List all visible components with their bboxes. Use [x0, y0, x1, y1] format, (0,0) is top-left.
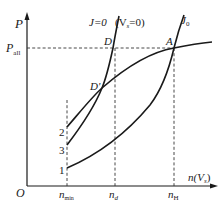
curve-number-2: 2 [59, 126, 65, 138]
vs-zero-label: (Vs=0) [115, 16, 145, 30]
point-d-label: D [103, 35, 112, 47]
point-a-label: A [165, 35, 173, 47]
axes [25, 12, 219, 189]
y-axis-arrow-icon [25, 12, 30, 20]
n-h-label: nH [168, 188, 179, 202]
reference-lines [27, 48, 174, 186]
j0-label: J0 [181, 14, 190, 28]
point-d-prime-label: D' [89, 80, 101, 92]
curves [67, 15, 212, 168]
j-zero-label: J=0 [89, 16, 107, 28]
p-all-label: Pall [5, 41, 20, 57]
labels: P O Pall nmin nd nH n(Vs) J=0 (Vs=0) J0 … [5, 14, 211, 202]
x-axis-label: n(Vs) [188, 171, 211, 185]
n-d-label: nd [109, 188, 119, 202]
curve-number-3: 3 [59, 144, 65, 156]
n-min-label: nmin [59, 188, 74, 201]
x-axis-arrow-icon [210, 184, 218, 189]
curve-number-1: 1 [59, 164, 65, 176]
origin-label: O [16, 186, 25, 200]
diagram: P O Pall nmin nd nH n(Vs) J=0 (Vs=0) J0 … [0, 0, 224, 205]
y-axis-label: P [14, 16, 23, 31]
